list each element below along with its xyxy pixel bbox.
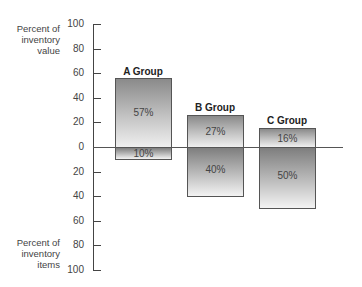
- group-label-c: C Group: [259, 115, 315, 126]
- axis-label-line: items: [0, 259, 60, 270]
- tick-label: 100: [60, 18, 84, 29]
- axis-label-line: Percent of: [0, 237, 60, 248]
- tick-mark: [93, 98, 101, 99]
- bar-value-label: 10%: [116, 148, 171, 159]
- tick-mark: [93, 24, 101, 25]
- tick-mark: [93, 196, 101, 197]
- tick-mark: [93, 49, 101, 50]
- tick-label: 60: [60, 215, 84, 226]
- tick-mark: [93, 270, 101, 271]
- y-axis-label-items: Percent of inventory items: [0, 237, 60, 270]
- bar-c-items: 50%: [259, 147, 316, 209]
- bar-c-value: 16%: [259, 128, 316, 148]
- group-label-a: A Group: [115, 66, 171, 77]
- axis-label-line: Percent of: [0, 23, 60, 34]
- y-axis-label-value: Percent of inventory value: [0, 23, 60, 56]
- tick-mark: [93, 122, 101, 123]
- tick-label: 100: [60, 264, 84, 275]
- tick-label: 20: [60, 166, 84, 177]
- tick-mark: [93, 73, 101, 74]
- tick-label: 60: [60, 67, 84, 78]
- bar-a-value: 57%: [115, 78, 172, 148]
- bar-value-label: 57%: [116, 107, 171, 118]
- tick-label: 0: [60, 141, 84, 152]
- tick-mark: [93, 221, 101, 222]
- axis-label-line: inventory: [0, 248, 60, 259]
- axis-label-line: value: [0, 45, 60, 56]
- tick-mark: [93, 172, 101, 173]
- tick-label: 20: [60, 116, 84, 127]
- zero-baseline: [93, 147, 343, 148]
- bar-value-label: 40%: [188, 164, 243, 175]
- tick-label: 80: [60, 239, 84, 250]
- tick-label: 80: [60, 43, 84, 54]
- bar-value-label: 27%: [188, 126, 243, 137]
- bar-value-label: 16%: [260, 133, 315, 144]
- axis-label-line: inventory: [0, 34, 60, 45]
- bar-b-items: 40%: [187, 147, 244, 197]
- tick-mark: [93, 245, 101, 246]
- group-label-b: B Group: [187, 102, 243, 113]
- bar-b-value: 27%: [187, 115, 244, 148]
- bar-a-items: 10%: [115, 147, 172, 160]
- tick-label: 40: [60, 190, 84, 201]
- bar-value-label: 50%: [260, 170, 315, 181]
- tick-label: 40: [60, 92, 84, 103]
